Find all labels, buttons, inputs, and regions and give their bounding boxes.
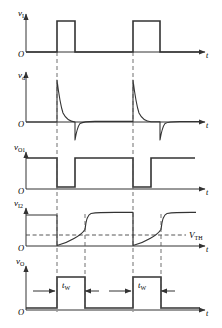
label-v-d-sub: d [22, 75, 25, 81]
label-v-th-sub: TH [195, 235, 204, 241]
origin-label-2: O [18, 119, 24, 129]
waveform-v-i [26, 21, 200, 52]
waveform-v-i2 [26, 212, 196, 245]
timing-diagram-figure: vI O t vd O t vO1 O t vI2 O t VTH [0, 0, 222, 328]
label-v-i-sub: I [22, 13, 24, 19]
t-label-4: t [206, 245, 209, 254]
label-v-d: vd [18, 70, 25, 81]
label-v-o1: vO1 [14, 142, 25, 153]
waveform-v-o1 [26, 158, 195, 187]
label-tw-1-sub: W [64, 285, 70, 291]
panel-v-o: tW tW vO O t [16, 256, 209, 318]
label-tw-2: tW [138, 280, 146, 291]
label-v-o1-sub: O1 [18, 147, 25, 153]
t-label-5: t [206, 309, 209, 318]
waveform-v-d [26, 80, 200, 140]
panel-v-o1: vO1 O t [14, 142, 209, 197]
origin-label-5: O [18, 307, 24, 317]
origin-label-3: O [18, 186, 24, 196]
label-v-o: vO [16, 256, 25, 267]
waveform-v-o [26, 277, 200, 308]
t-label-2: t [206, 121, 209, 130]
alignment-guides [57, 52, 161, 312]
origin-label-4: O [18, 243, 24, 253]
label-v-i: vI [18, 8, 24, 19]
label-v-o-sub: O [20, 261, 25, 267]
label-v-i2-sub: I2 [18, 203, 23, 209]
label-tw-1: tW [62, 280, 70, 291]
t-label-1: t [206, 51, 209, 60]
panel-v-i: vI O t [18, 8, 209, 60]
label-v-i2: vI2 [14, 198, 23, 209]
t-label-3: t [206, 188, 209, 197]
label-tw-2-sub: W [140, 285, 146, 291]
panel-v-i2: vI2 O t VTH [14, 198, 209, 254]
origin-label-1: O [18, 49, 24, 59]
panel-v-d: vd O t [18, 70, 209, 140]
label-v-th: VTH [189, 230, 203, 241]
